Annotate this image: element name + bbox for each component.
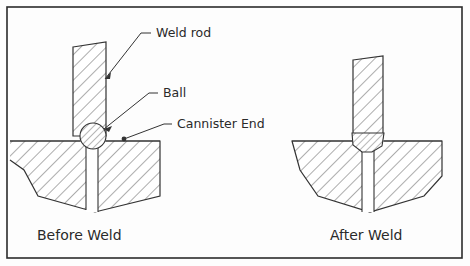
label-cannister-end: Cannister End [177, 116, 265, 131]
leader-weld-rod [105, 33, 151, 79]
panel-before-weld: Weld rod Ball Cannister End Before Weld [0, 25, 265, 243]
channel-left [86, 140, 98, 212]
weld-diagram: Weld rod Ball Cannister End Before Weld [0, 0, 470, 266]
panel-after-weld: After Weld [285, 52, 460, 243]
leader-ball [104, 93, 158, 132]
leader-cannister-end [122, 124, 172, 141]
figure-container: Weld rod Ball Cannister End Before Weld [0, 0, 470, 266]
caption-after-weld: After Weld [330, 227, 402, 243]
label-weld-rod: Weld rod [156, 25, 211, 40]
caption-before-weld: Before Weld [37, 227, 122, 243]
label-ball: Ball [163, 85, 186, 100]
weld-rod-right [346, 52, 392, 144]
